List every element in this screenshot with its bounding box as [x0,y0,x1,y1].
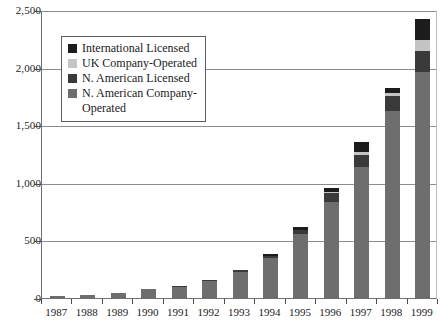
bar-segment [324,188,339,191]
x-tick-label: 1994 [254,306,284,318]
x-tick-mark [315,299,316,304]
bar-stack[interactable] [385,10,400,298]
x-tick-label: 1999 [407,306,437,318]
x-tick-mark [285,299,286,304]
x-tick-label: 1989 [102,306,132,318]
bar-segment [263,256,278,258]
y-tick-mark [34,299,41,300]
chart-legend: International LicensedUK Company-Operate… [61,36,206,122]
bar-segment [385,111,400,298]
x-tick-label: 1987 [41,306,71,318]
x-tick-mark [132,299,133,304]
x-tick-label: 1993 [224,306,254,318]
x-tick-mark [193,299,194,304]
x-tick-mark [407,299,408,304]
bar-segment [80,295,95,298]
x-tick-label: 1990 [132,306,162,318]
legend-item[interactable]: N. American Licensed [68,71,197,86]
x-tick-mark [102,299,103,304]
y-tick-mark [34,126,41,127]
bar-segment [385,96,400,111]
x-tick-mark [437,299,438,304]
y-tick-mark [34,11,41,12]
legend-swatch-na-licensed [68,74,77,83]
x-tick-mark [163,299,164,304]
bar-segment [50,296,65,298]
x-tick-label: 1996 [315,306,345,318]
x-axis: 1987198819891990199119921993199419951996… [41,299,437,329]
x-tick-label: 1995 [285,306,315,318]
x-tick-label: 1997 [346,306,376,318]
bar-segment [263,258,278,298]
legend-swatch-international-licensed [68,44,77,53]
legend-item-label: N. American Licensed [82,71,190,86]
bar-chart: 05001,0001,5002,0002,500 198719881989199… [0,0,441,329]
legend-swatch-uk-company-operated [68,59,77,68]
bar-segment [233,272,248,298]
bar-segment [354,167,369,298]
bar-segment [354,152,369,155]
bar-segment [293,230,308,235]
bar-stack[interactable] [354,10,369,298]
bar-segment [354,142,369,152]
legend-item-label: N. American Company- Operated [82,86,197,116]
x-tick-label: 1998 [376,306,406,318]
bar-stack[interactable] [233,10,248,298]
bar-segment [202,281,217,298]
bar-segment [354,155,369,168]
x-tick-mark [41,299,42,304]
bar-segment [141,289,156,298]
legend-item-label: UK Company-Operated [82,56,197,71]
bar-stack[interactable] [293,10,308,298]
legend-item[interactable]: N. American Company- Operated [68,86,197,116]
bar-segment [263,254,278,256]
bar-segment [233,270,248,271]
x-tick-label: 1992 [193,306,223,318]
legend-item-label: International Licensed [82,41,190,56]
bar-stack[interactable] [324,10,339,298]
bar-segment [415,19,430,40]
x-tick-label: 1991 [163,306,193,318]
x-tick-mark [224,299,225,304]
y-tick-mark [34,69,41,70]
bar-segment [293,234,308,298]
x-tick-mark [254,299,255,304]
bar-segment [293,227,308,230]
x-tick-mark [376,299,377,304]
legend-swatch-na-company-operated [68,89,77,98]
bar-segment [385,88,400,93]
y-axis: 05001,0001,5002,0002,500 [0,0,41,310]
legend-item[interactable]: International Licensed [68,41,197,56]
bar-segment [202,280,217,281]
y-tick-mark [34,184,41,185]
bar-segment [415,72,430,298]
bar-stack[interactable] [415,10,430,298]
bar-segment [111,293,126,298]
bar-segment [415,51,430,72]
bar-segment [324,193,339,202]
legend-item[interactable]: UK Company-Operated [68,56,197,71]
bar-segment [324,202,339,298]
y-tick-mark [34,241,41,242]
bar-stack[interactable] [263,10,278,298]
bar-segment [172,286,187,287]
bar-segment [172,287,187,298]
x-tick-mark [71,299,72,304]
bar-segment [324,192,339,193]
x-tick-mark [346,299,347,304]
x-tick-label: 1988 [71,306,101,318]
bar-segment [415,40,430,51]
bar-segment [385,93,400,95]
